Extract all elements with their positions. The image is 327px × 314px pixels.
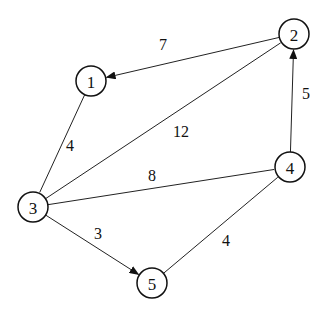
nodes-group: 12345 [18, 19, 309, 298]
node-label: 4 [286, 159, 295, 178]
edge-5-4 [163, 177, 277, 273]
edge-4-2 [290, 50, 293, 152]
edge-weight-label: 8 [148, 167, 156, 184]
node-label: 1 [87, 73, 96, 92]
node-5: 5 [137, 268, 167, 298]
weighted-graph-diagram: 74125834 12345 [0, 0, 327, 314]
edge-2-1 [107, 37, 280, 77]
node-label: 2 [290, 26, 299, 45]
edge-weight-label: 4 [222, 232, 230, 249]
node-label: 3 [29, 199, 38, 218]
node-1: 1 [76, 66, 106, 96]
node-2: 2 [279, 19, 309, 49]
edge-weight-label: 4 [66, 137, 74, 154]
node-3: 3 [18, 192, 48, 222]
edge-weight-label: 5 [302, 85, 310, 102]
edge-3-2 [46, 43, 281, 199]
edge-weight-label: 7 [159, 36, 167, 53]
edge-3-5 [46, 215, 139, 274]
edge-weights-group: 74125834 [66, 36, 310, 249]
edge-weight-label: 3 [94, 225, 102, 242]
node-label: 5 [148, 275, 157, 294]
edge-weight-label: 12 [173, 123, 189, 140]
node-4: 4 [275, 152, 305, 182]
